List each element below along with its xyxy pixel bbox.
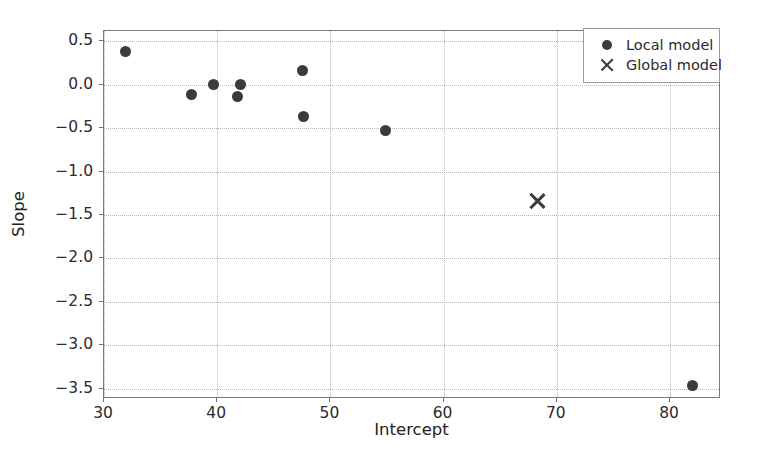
y-tick-label: −2.0 — [55, 248, 93, 266]
circle-marker-icon — [592, 40, 622, 50]
gridline-horizontal — [104, 302, 719, 303]
y-tick-mark — [99, 257, 103, 258]
scatter-point-local-model — [380, 125, 391, 136]
y-tick-mark — [99, 344, 103, 345]
scatter-point-global-model — [528, 191, 548, 211]
gridline-vertical — [104, 31, 105, 397]
plot-area — [103, 30, 720, 398]
gridline-horizontal — [104, 345, 719, 346]
x-tick-mark — [329, 398, 330, 402]
scatter-point-local-model — [208, 79, 219, 90]
gridline-vertical — [670, 31, 671, 397]
y-tick-mark — [99, 84, 103, 85]
scatter-point-local-model — [297, 65, 308, 76]
gridline-vertical — [330, 31, 331, 397]
y-tick-label: 0.5 — [68, 31, 93, 49]
y-axis-label: Slope — [9, 191, 28, 237]
y-tick-mark — [99, 127, 103, 128]
chart-legend: Local model Global model — [583, 28, 720, 83]
scatter-point-local-model — [298, 111, 309, 122]
scatter-point-local-model — [687, 380, 698, 391]
legend-item-local-model: Local model — [592, 35, 711, 55]
y-tick-label: 0.0 — [68, 75, 93, 93]
y-tick-label: −3.0 — [55, 335, 93, 353]
x-tick-mark — [103, 398, 104, 402]
y-tick-label: −2.5 — [55, 292, 93, 310]
legend-label-global-model: Global model — [622, 57, 722, 73]
x-axis-label: Intercept — [103, 420, 720, 439]
x-tick-mark — [443, 398, 444, 402]
x-tick-mark — [216, 398, 217, 402]
gridline-horizontal — [104, 172, 719, 173]
y-tick-label: −3.5 — [55, 379, 93, 397]
gridline-horizontal — [104, 215, 719, 216]
y-tick-mark — [99, 301, 103, 302]
y-tick-label: −0.5 — [55, 118, 93, 136]
scatter-point-local-model — [235, 79, 246, 90]
y-tick-mark — [99, 40, 103, 41]
legend-label-local-model: Local model — [622, 37, 713, 53]
x-tick-mark — [669, 398, 670, 402]
x-tick-mark — [556, 398, 557, 402]
legend-item-global-model: Global model — [592, 55, 711, 75]
gridline-horizontal — [104, 389, 719, 390]
scatter-point-local-model — [232, 91, 243, 102]
scatter-point-local-model — [120, 46, 131, 57]
x-marker-icon — [592, 57, 622, 73]
gridline-vertical — [444, 31, 445, 397]
scatter-chart-figure: 3040506070800.50.0−0.5−1.0−1.5−2.0−2.5−3… — [0, 0, 758, 462]
y-tick-label: −1.0 — [55, 162, 93, 180]
gridline-horizontal — [104, 85, 719, 86]
scatter-point-local-model — [186, 89, 197, 100]
gridline-horizontal — [104, 128, 719, 129]
y-tick-mark — [99, 388, 103, 389]
y-tick-mark — [99, 171, 103, 172]
gridline-horizontal — [104, 258, 719, 259]
gridline-vertical — [557, 31, 558, 397]
y-tick-label: −1.5 — [55, 205, 93, 223]
y-tick-mark — [99, 214, 103, 215]
